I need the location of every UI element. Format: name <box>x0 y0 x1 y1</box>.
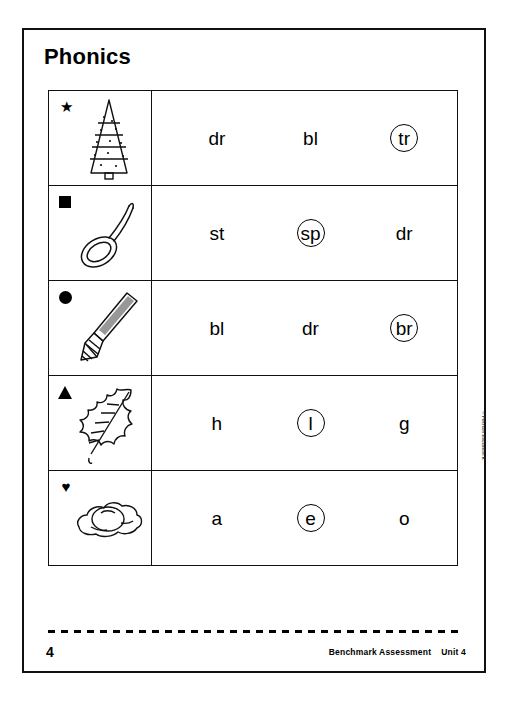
fried-egg-icon <box>71 475 147 561</box>
leaf-icon <box>71 380 147 466</box>
options-cell: st sp dr <box>152 186 458 281</box>
options-row: bl dr br <box>152 281 457 375</box>
footer-caption: Benchmark AssessmentUnit 4 <box>329 647 466 657</box>
table-row: bl dr br <box>49 281 458 376</box>
assessment-label: Benchmark Assessment <box>329 647 431 657</box>
option-choice[interactable]: a <box>170 507 264 530</box>
page-title: Phonics <box>44 44 131 70</box>
unit-label: Unit 4 <box>441 647 466 657</box>
phonics-question-table: ★ <box>48 90 458 566</box>
picture-cell <box>49 186 152 281</box>
spoon-icon <box>71 190 147 276</box>
option-choice-selected[interactable]: tr <box>357 124 451 152</box>
table-row: ♥ <box>49 471 458 566</box>
copyright-notice: © Pearson Education K <box>481 412 486 460</box>
option-choice-selected[interactable]: br <box>357 314 451 342</box>
options-cell: dr bl tr <box>152 91 458 186</box>
option-choice[interactable]: bl <box>170 317 264 340</box>
page-footer: 4 Benchmark AssessmentUnit 4 <box>46 642 466 662</box>
options-row: h l g <box>152 376 457 470</box>
picture-cell <box>49 281 152 376</box>
options-row: a e o <box>152 471 457 565</box>
options-cell: a e o <box>152 471 458 566</box>
option-choice[interactable]: dr <box>170 127 264 150</box>
option-choice[interactable]: g <box>357 412 451 435</box>
option-choice[interactable]: o <box>357 507 451 530</box>
option-choice-selected[interactable]: e <box>264 504 358 532</box>
picture-cell <box>49 376 152 471</box>
option-choice[interactable]: bl <box>264 127 358 150</box>
option-choice[interactable]: h <box>170 412 264 435</box>
cut-line-divider <box>48 630 458 633</box>
options-row: dr bl tr <box>152 91 457 185</box>
picture-cell: ★ <box>49 91 152 186</box>
options-row: st sp dr <box>152 186 457 280</box>
option-choice-selected[interactable]: l <box>264 409 358 437</box>
page-number: 4 <box>46 644 54 660</box>
picture-cell: ♥ <box>49 471 152 566</box>
worksheet-page: Phonics ★ <box>22 28 486 673</box>
table-row: st sp dr <box>49 186 458 281</box>
paintbrush-icon <box>71 285 147 371</box>
options-cell: h l g <box>152 376 458 471</box>
option-choice[interactable]: dr <box>264 317 358 340</box>
table-body: ★ <box>49 91 458 566</box>
table-row: h l g <box>49 376 458 471</box>
option-choice-selected[interactable]: sp <box>264 219 358 247</box>
table-row: ★ <box>49 91 458 186</box>
option-choice[interactable]: dr <box>357 222 451 245</box>
options-cell: bl dr br <box>152 281 458 376</box>
tree-icon <box>71 95 147 181</box>
option-choice[interactable]: st <box>170 222 264 245</box>
